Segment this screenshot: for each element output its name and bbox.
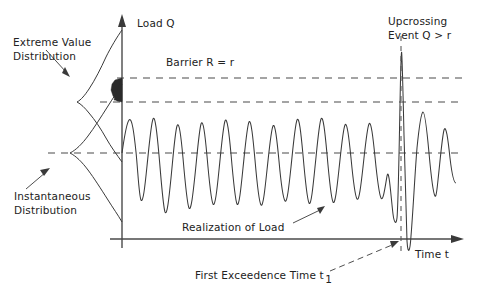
load-process-diagram: Load Q Time t Extreme Value Distribution…	[0, 0, 482, 296]
barrier-label: Barrier R = r	[166, 56, 235, 68]
upcrossing-label-line1: Upcrossing	[388, 15, 447, 27]
first-exceedence-time-text: First Exceedence Time t	[195, 269, 324, 281]
time-axis-label: Time t	[414, 248, 449, 260]
first-exceedence-time-subscript: 1	[325, 273, 332, 285]
instantaneous-distribution-label-line1: Instantaneous	[14, 190, 91, 202]
load-axis-label: Load Q	[137, 17, 175, 29]
instantaneous-distribution-label-line2: Distribution	[14, 204, 77, 216]
extreme-value-distribution-label-line2: Distribution	[13, 50, 76, 62]
upcrossing-label-line2: Event Q > r	[388, 29, 452, 41]
realization-of-load-label: Realization of Load	[182, 221, 284, 233]
extreme-value-distribution-label-line1: Extreme Value	[13, 36, 91, 48]
